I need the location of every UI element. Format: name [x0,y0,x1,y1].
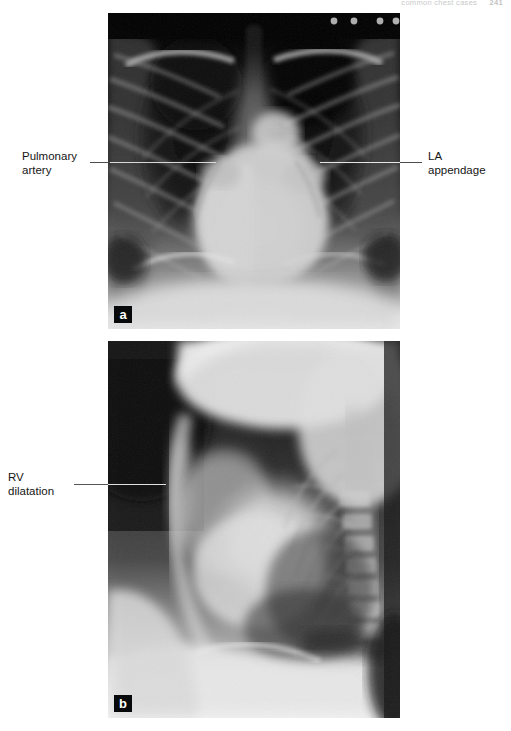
leader-line-pulmonary-artery [90,162,216,163]
leader-line-segment [74,484,108,485]
leader-line-segment [400,162,422,163]
running-head: common chest cases 241 [401,0,503,7]
panel-a-tag: a [114,306,132,323]
leader-line-rv-dilatation [74,484,166,485]
leader-line-la-appendage [320,162,422,163]
pa-chest-radiograph [108,13,400,329]
page-number: 241 [490,0,503,7]
annotation-rv-dilatation: RV dilatation [8,471,54,498]
lateral-chest-radiograph [108,341,400,718]
annotation-la-appendage: LA appendage [428,150,486,177]
running-head-title: common chest cases [401,0,477,7]
figure-panel-a: a [108,13,400,329]
annotation-pulmonary-artery: Pulmonary artery [22,150,77,177]
leader-line-segment [90,162,110,163]
panel-b-tag: b [114,695,132,712]
figure-panel-b: b [108,341,400,718]
